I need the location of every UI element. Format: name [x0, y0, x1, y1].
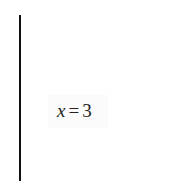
plot-area: x=3	[0, 0, 195, 181]
label-value: 3	[82, 100, 92, 121]
line-label: x=3	[57, 100, 92, 122]
label-operator: =	[68, 100, 79, 121]
label-variable: x	[57, 100, 65, 121]
vertical-line-x-equals-3	[19, 15, 21, 181]
